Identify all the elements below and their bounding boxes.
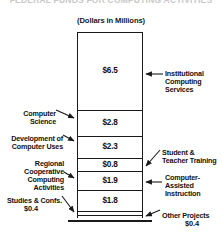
segment-computer-science: $2.8	[78, 111, 142, 137]
segment-value-regional: $1.9	[102, 177, 117, 185]
stacked-bar-chart: FEDERAL FUNDS FOR COMPUTING ACTIVITIES (…	[0, 0, 222, 237]
callout-label-student-teacher: Student & Teacher Training	[162, 148, 217, 165]
segment-value-cai: $1.8	[102, 197, 117, 205]
callout-amount-other: $0.4	[162, 220, 222, 228]
segment-development-of-computer-uses: $2.3	[78, 137, 142, 159]
stacked-column: $6.5 $2.8 $2.3 $0.8 $1.9 $1.8 $0.4 $0.4	[77, 32, 143, 218]
segment-value-student-teacher: $0.8	[102, 161, 117, 169]
callout-label-cai: Computer- Assisted Instruction	[165, 173, 200, 198]
callout-label-computer-science: Computer Science	[23, 109, 56, 126]
chart-title: FEDERAL FUNDS FOR COMPUTING ACTIVITIES	[0, 0, 222, 5]
segment-computer-assisted-instruction: $1.8	[78, 191, 142, 212]
callout-institutional-computing-services: Institutional Computing Services	[165, 62, 221, 94]
segment-institutional-computing-services: $6.5	[78, 33, 142, 111]
callout-label-development: Development of Computer Uses	[11, 134, 63, 151]
callout-development-of-computer-uses: Development of Computer Uses	[0, 127, 63, 151]
callout-studies-and-confs: Studies & Confs. $0.4	[0, 189, 62, 221]
segment-value-computer-science: $2.8	[102, 119, 117, 127]
baseline-rule	[68, 220, 152, 222]
callout-regional-cooperative-computing: Regional Cooperative Computing Activitie…	[0, 152, 64, 192]
callout-computer-assisted-instruction: Computer- Assisted Instruction	[165, 166, 221, 198]
callout-student-teacher-training: Student & Teacher Training	[162, 141, 222, 165]
callout-other-projects: Other Projects $0.4	[162, 204, 222, 236]
segment-regional-cooperative-computing: $1.9	[78, 172, 142, 191]
segment-value-institutional: $6.5	[102, 67, 117, 75]
segment-other-projects: $0.4	[78, 216, 142, 219]
segment-value-development: $2.3	[102, 143, 117, 151]
callout-label-institutional: Institutional Computing Services	[165, 69, 204, 94]
chart-subtitle: (Dollars in Millions)	[0, 16, 222, 25]
callout-computer-science: Computer Science	[0, 102, 56, 126]
segment-student-teacher-training: $0.8	[78, 159, 142, 172]
callout-amount-studies: $0.4	[0, 205, 62, 213]
callout-label-regional: Regional Cooperative Computing Activitie…	[24, 159, 64, 192]
